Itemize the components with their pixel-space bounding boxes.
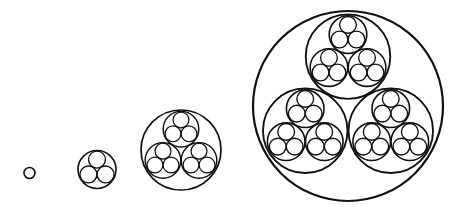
figure-level-3 — [253, 11, 443, 201]
outer-circle — [24, 168, 35, 179]
sub-circle — [286, 90, 324, 128]
sub-circle — [305, 105, 322, 122]
fractal-figures — [24, 11, 443, 201]
sub-circle — [321, 49, 338, 66]
sub-circle — [331, 31, 348, 48]
sub-circle — [80, 166, 97, 183]
sub-circle — [401, 124, 418, 141]
sub-circle — [355, 138, 372, 155]
sub-circle — [305, 123, 343, 161]
sub-circle — [267, 123, 305, 161]
sub-circle — [147, 157, 163, 173]
sub-circle — [181, 143, 217, 179]
sub-circle — [278, 124, 295, 141]
sub-circle — [363, 124, 380, 141]
sub-circle — [307, 138, 324, 155]
sub-circle — [353, 123, 391, 161]
sub-circle — [181, 126, 197, 142]
sub-circle — [165, 126, 181, 142]
sub-circle — [310, 49, 348, 87]
sub-circle — [372, 138, 389, 155]
sub-circle — [350, 64, 367, 81]
sub-circle — [297, 91, 314, 108]
sub-circle — [329, 64, 346, 81]
sub-circle — [391, 105, 408, 122]
sub-circle — [183, 157, 199, 173]
sub-circle — [145, 143, 181, 179]
outer-circle — [141, 110, 221, 190]
sub-circle — [359, 49, 376, 66]
sub-circle — [191, 143, 207, 159]
sub-circle — [367, 64, 384, 81]
outer-circle — [78, 151, 116, 189]
sub-circle — [329, 16, 367, 54]
sub-circle — [391, 123, 429, 161]
sub-circle — [286, 138, 303, 155]
sub-circle — [349, 88, 434, 173]
sub-circle — [199, 157, 215, 173]
sub-circle — [269, 138, 286, 155]
figure-level-1 — [78, 151, 116, 189]
sub-circle — [340, 16, 357, 33]
sub-circle — [348, 31, 365, 48]
sub-circle — [410, 138, 427, 155]
sub-circle — [163, 157, 179, 173]
figure-level-0 — [24, 168, 35, 179]
sub-circle — [155, 143, 171, 159]
sub-circle — [306, 14, 391, 99]
sub-circle — [372, 90, 410, 128]
sub-circle — [173, 112, 189, 128]
sub-circle — [263, 88, 348, 173]
sub-circle — [374, 105, 391, 122]
sub-circle — [89, 151, 106, 168]
figure-level-2 — [141, 110, 221, 190]
sub-circle — [316, 124, 333, 141]
sub-circle — [382, 91, 399, 108]
sub-circle — [288, 105, 305, 122]
sub-circle — [97, 166, 114, 183]
sub-circle — [324, 138, 341, 155]
nested-circles-diagram — [0, 0, 462, 208]
sub-circle — [393, 138, 410, 155]
sub-circle — [163, 111, 199, 147]
sub-circle — [348, 49, 386, 87]
sub-circle — [312, 64, 329, 81]
